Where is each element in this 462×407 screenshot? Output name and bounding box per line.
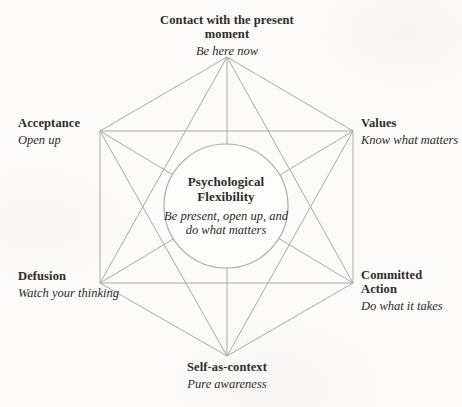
node-subtitle: Open up: [18, 133, 128, 147]
node-title: Defusion: [18, 269, 138, 283]
node-subtitle: Pure awareness: [147, 377, 307, 391]
center-subtitle: Be present, open up, and do what matters: [163, 209, 289, 237]
hexaflex-diagram: Contact with the present moment Be here …: [0, 0, 462, 407]
node-values: Values Know what matters: [361, 116, 461, 147]
node-acceptance: Acceptance Open up: [18, 116, 128, 147]
node-subtitle: Be here now: [157, 44, 297, 58]
node-subtitle: Do what it takes: [361, 299, 445, 313]
node-title: Values: [361, 116, 461, 130]
node-title: Self-as-context: [147, 360, 307, 374]
node-committed-action: Committed Action Do what it takes: [361, 268, 445, 313]
node-subtitle: Watch your thinking: [18, 286, 138, 300]
center-title: Psychological Flexibility: [163, 175, 289, 204]
node-self-as-context: Self-as-context Pure awareness: [147, 360, 307, 391]
node-title: Contact with the present moment: [157, 13, 297, 41]
node-defusion: Defusion Watch your thinking: [18, 269, 138, 300]
node-subtitle: Know what matters: [361, 133, 461, 147]
node-contact-present-moment: Contact with the present moment Be here …: [157, 13, 297, 58]
node-title: Committed Action: [361, 268, 445, 296]
node-title: Acceptance: [18, 116, 128, 130]
center-label: Psychological Flexibility Be present, op…: [163, 175, 289, 237]
